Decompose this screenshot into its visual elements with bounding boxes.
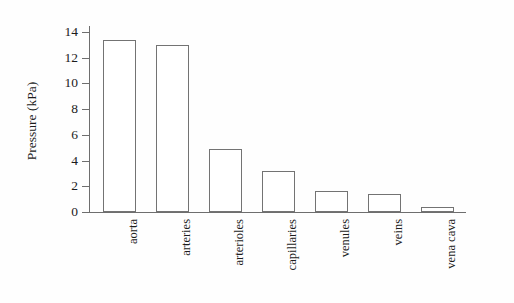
x-axis-tick-label-text: venules	[338, 219, 353, 257]
bar-veins	[368, 194, 401, 212]
y-axis-tick	[82, 186, 90, 187]
x-axis-tick-label-text: veins	[391, 219, 406, 245]
y-axis-tick	[82, 58, 90, 59]
y-axis-tick-labels: 02468101214	[50, 0, 78, 303]
x-axis-tick-label: aorta	[126, 219, 141, 244]
x-axis-tick-label-text: arterioles	[232, 219, 247, 266]
y-axis-tick	[82, 83, 90, 84]
bar-arteries	[156, 45, 189, 212]
x-axis-tick-label: veins	[391, 219, 406, 245]
y-axis-tick	[82, 109, 90, 110]
x-axis-tick-label: arterioles	[232, 219, 247, 266]
y-axis-tick-label: 8	[54, 102, 78, 116]
y-axis-line	[89, 26, 90, 213]
y-axis-tick	[82, 161, 90, 162]
y-axis-tick-label: 4	[54, 154, 78, 168]
bar-arterioles	[209, 149, 242, 212]
y-axis-tick-label: 2	[54, 179, 78, 193]
x-axis-tick-label: venules	[338, 219, 353, 257]
bar-capillaries	[262, 171, 295, 212]
bar-chart: Pressure (kPa) 02468101214 aortaarteries…	[0, 0, 514, 303]
bar-vena-cava	[421, 207, 454, 212]
y-axis-tick-label: 0	[54, 205, 78, 219]
y-axis-tick	[82, 32, 90, 33]
x-axis-tick-label-text: vena cava	[444, 219, 459, 269]
x-axis-tick-label-text: capillaries	[285, 219, 300, 270]
y-axis-tick-label: 6	[54, 128, 78, 142]
bar-venules	[315, 191, 348, 212]
y-axis-tick-label: 14	[54, 25, 78, 39]
x-axis-tick-label-text: aorta	[126, 219, 141, 244]
x-axis-tick-label: vena cava	[444, 219, 459, 269]
x-axis-tick-label: capillaries	[285, 219, 300, 270]
y-axis-tick-label: 10	[54, 76, 78, 90]
x-axis-tick-label-text: arteries	[179, 219, 194, 256]
x-axis-line	[89, 212, 466, 213]
y-axis-tick-label: 12	[54, 51, 78, 65]
y-axis-title: Pressure (kPa)	[24, 56, 40, 186]
y-axis-tick	[82, 135, 90, 136]
y-axis-tick	[82, 212, 90, 213]
x-axis-tick-label: arteries	[179, 219, 194, 256]
bar-aorta	[103, 40, 136, 212]
